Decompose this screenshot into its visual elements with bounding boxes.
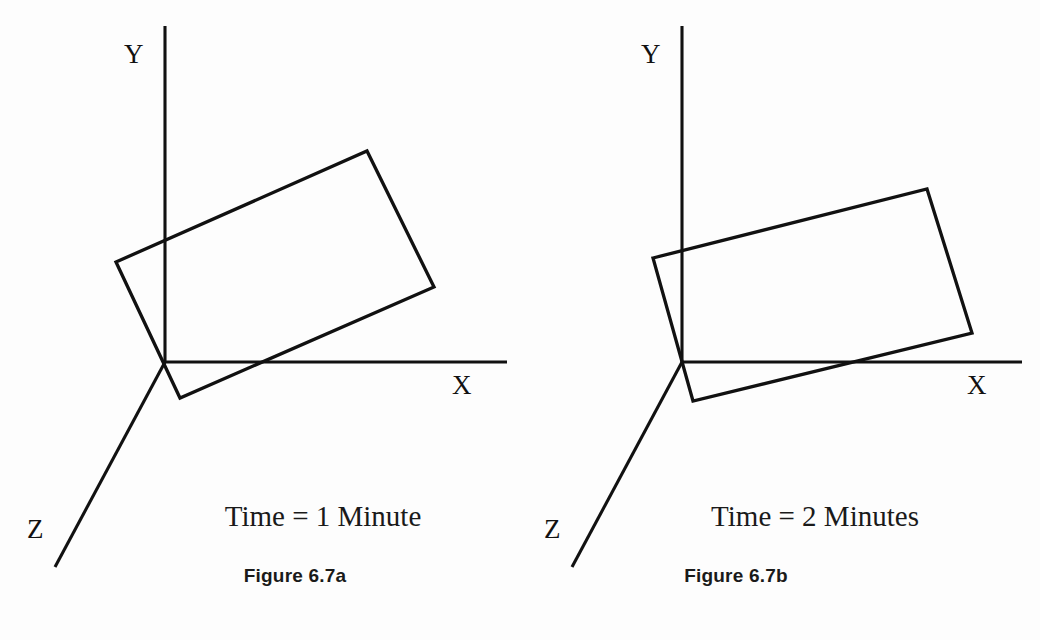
figure-panel-b: Y X Z Time = 2 Minutes Figure 6.7b	[520, 0, 1040, 640]
rotating-plate-outline	[653, 189, 972, 401]
time-annotation-b: Time = 2 Minutes	[675, 500, 955, 533]
figure-page: Y X Z Time = 1 Minute Figure 6.7a Y X Z …	[0, 0, 1040, 640]
z-axis-label: Z	[544, 516, 561, 543]
axes-and-shape-diagram-b	[520, 0, 1040, 640]
y-axis-label: Y	[124, 41, 144, 68]
z-axis-label: Z	[27, 516, 44, 543]
x-axis-label: X	[452, 372, 472, 399]
figure-caption-b: Figure 6.7b	[636, 565, 836, 587]
axes-and-shape-diagram-a	[0, 0, 520, 640]
z-axis-line	[572, 362, 682, 567]
z-axis-line	[55, 362, 165, 567]
y-axis-label: Y	[641, 41, 661, 68]
figure-panel-a: Y X Z Time = 1 Minute Figure 6.7a	[0, 0, 520, 640]
time-annotation-a: Time = 1 Minute	[183, 500, 463, 533]
figure-caption-a: Figure 6.7a	[195, 565, 395, 587]
x-axis-label: X	[967, 372, 987, 399]
